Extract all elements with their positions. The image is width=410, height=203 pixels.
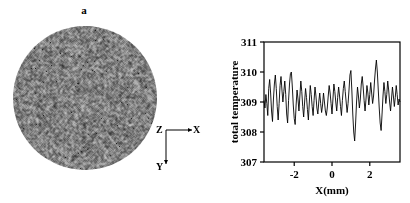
y-tick-label: 311 [241, 36, 257, 48]
y-axis-title: total temperature [228, 61, 240, 144]
temperature-line-chart: 307308309310311-202X(mm)total temperatur… [0, 0, 410, 203]
temperature-trace [264, 60, 400, 141]
figure-container: a Z X Y b 307308309310311-202X(mm)total … [0, 0, 410, 203]
x-tick-label: 0 [329, 168, 335, 180]
plot-frame [264, 42, 400, 162]
x-tick-label: -2 [290, 168, 300, 180]
x-axis-title: X(mm) [315, 184, 349, 197]
x-tick-label: 2 [367, 168, 373, 180]
y-tick-label: 309 [241, 96, 258, 108]
y-tick-label: 307 [241, 156, 258, 168]
y-tick-label: 308 [241, 126, 258, 138]
y-tick-label: 310 [241, 66, 258, 78]
